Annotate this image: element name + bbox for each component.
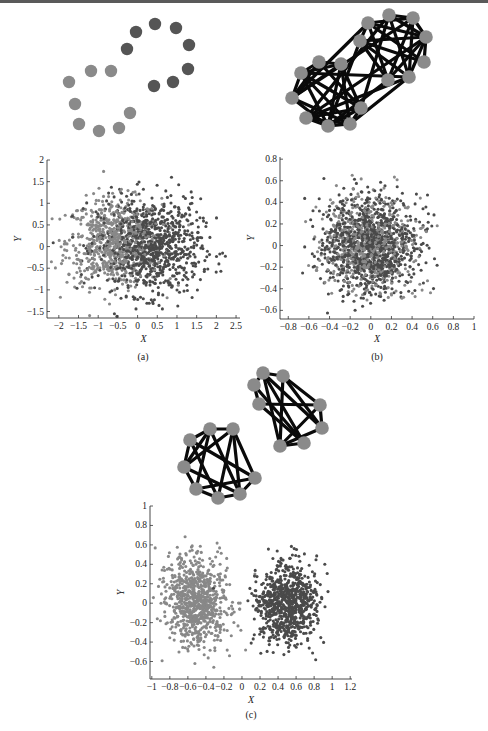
x-tick-label: 0: [240, 682, 245, 692]
x-tick-label: −0.6: [300, 322, 317, 332]
graph-node: [334, 57, 348, 71]
x-tick-label: −2: [54, 321, 64, 331]
x-tick-label: 0.5: [151, 321, 163, 331]
graph-node: [167, 76, 179, 88]
x-tick-label: 0.8: [447, 322, 459, 332]
graph-node: [183, 433, 197, 447]
x-tick-label: −1: [93, 321, 103, 331]
y-tick-label: 0: [39, 242, 44, 252]
x-tick-label: 0.4: [272, 682, 284, 692]
graph-node: [402, 70, 416, 84]
graph-node: [382, 8, 396, 22]
y-tick-label: 0.5: [32, 220, 44, 230]
graph-node: [417, 55, 431, 69]
graph-node: [233, 487, 247, 501]
graph-node: [256, 366, 270, 380]
y-tick-label: −0.4: [130, 637, 147, 647]
y-tick-label: −1.5: [27, 307, 44, 317]
graph-node: [343, 117, 357, 131]
x-tick-label: 1.2: [344, 682, 356, 692]
y-tick-label: −0.4: [260, 284, 277, 294]
graph-node: [248, 471, 262, 485]
graph-node: [73, 118, 85, 130]
x-tick-label: 0.4: [406, 322, 418, 332]
graph-node: [247, 378, 261, 392]
figure-canvas: −2−1.5−1−0.500.511.522.5−1.5−1−0.500.511…: [0, 0, 488, 731]
y-tick-label: −0.6: [130, 657, 147, 667]
graph-node: [211, 491, 225, 505]
x-tick-label: 1: [175, 321, 180, 331]
x-tick-label: −1.5: [70, 321, 87, 331]
scatter-plot-b: −0.8−0.6−0.4−0.200.20.40.60.81−0.6−0.4−0…: [245, 154, 477, 344]
x-tick-label: 0.2: [254, 682, 266, 692]
caption-a: (a): [137, 351, 148, 363]
graph-node: [85, 65, 97, 77]
y-tick-label: 0.6: [135, 540, 147, 550]
x-tick-label: 1: [330, 682, 335, 692]
graph-node: [299, 111, 313, 125]
caption-b: (b): [371, 351, 383, 363]
x-axis-label: X: [139, 333, 147, 344]
scatter-points: [301, 174, 439, 315]
y-tick-label: 0: [142, 598, 147, 608]
y-tick-label: 0: [272, 241, 277, 251]
y-tick-label: 0.8: [135, 520, 147, 530]
graph-node: [315, 421, 329, 435]
x-tick-label: 0.8: [308, 682, 320, 692]
y-tick-label: −1: [34, 285, 44, 295]
graph-node: [361, 16, 375, 30]
graph-panel-b: [285, 8, 433, 133]
graph-node: [93, 125, 105, 137]
scatter-points: [50, 170, 227, 318]
graph-node: [170, 22, 182, 34]
scatter-points: [152, 535, 330, 669]
graph-node: [273, 439, 287, 453]
y-tick-label: 1: [39, 198, 44, 208]
graph-node: [124, 107, 136, 119]
graph-node: [121, 43, 133, 55]
graph-node: [113, 122, 125, 134]
graph-node: [189, 482, 203, 496]
x-tick-label: −0.8: [161, 682, 178, 692]
graph-node: [313, 398, 327, 412]
x-tick-label: 1: [472, 322, 477, 332]
y-tick-label: −0.6: [260, 305, 277, 315]
y-tick-label: 0.2: [135, 579, 147, 589]
x-tick-label: −1: [147, 682, 157, 692]
x-axis-label: X: [373, 333, 381, 344]
y-axis-label: Y: [115, 588, 126, 595]
graph-node: [354, 101, 368, 115]
graph-node: [183, 39, 195, 51]
graph-node: [297, 436, 311, 450]
scatter-plot-a: −2−1.5−1−0.500.511.522.5−1.5−1−0.500.511…: [12, 155, 242, 344]
x-tick-label: 0.2: [386, 322, 398, 332]
x-tick-label: 0.6: [290, 682, 302, 692]
y-tick-label: −0.2: [260, 262, 277, 272]
x-tick-label: 2: [214, 321, 219, 331]
graph-node: [130, 26, 142, 38]
graph-node: [294, 66, 308, 80]
y-tick-label: 1.5: [32, 177, 44, 187]
x-tick-label: 0: [135, 321, 140, 331]
y-tick-label: 1: [142, 501, 147, 511]
y-axis-label: Y: [12, 235, 23, 242]
graph-node: [63, 76, 75, 88]
y-tick-label: 0.6: [265, 176, 277, 186]
y-axis-label: Y: [245, 234, 256, 241]
x-tick-label: −0.2: [215, 682, 232, 692]
y-tick-label: 0.4: [135, 559, 147, 569]
scatter-plot-c: −1−0.8−0.6−0.4−0.200.20.40.60.811.2−0.6−…: [115, 501, 356, 705]
graph-node: [105, 65, 117, 77]
graph-node: [203, 422, 217, 436]
x-tick-label: 0.6: [427, 322, 439, 332]
graph-node: [312, 55, 326, 69]
graph-node: [226, 422, 240, 436]
x-tick-label: −0.5: [109, 321, 126, 331]
graph-node: [182, 63, 194, 75]
graph-node: [69, 98, 81, 110]
graph-node: [353, 34, 367, 48]
y-tick-label: 2: [39, 155, 44, 165]
graph-node: [321, 119, 335, 133]
x-tick-label: −0.6: [179, 682, 196, 692]
y-tick-label: −0.5: [27, 263, 44, 273]
